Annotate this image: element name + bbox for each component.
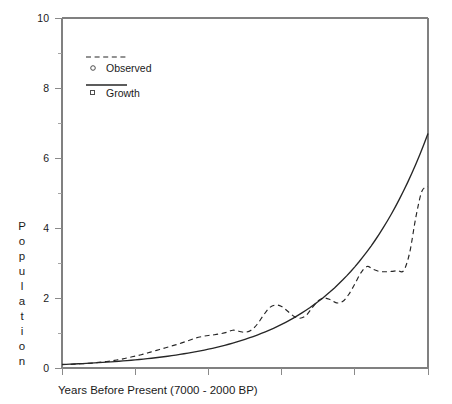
- legend-marker-square-icon: [91, 91, 95, 95]
- series-growth-path: [62, 134, 428, 365]
- y-tick-label-0: 0: [43, 362, 49, 374]
- legend-label-observed: Observed: [106, 62, 152, 74]
- population-growth-chart: 10 8 6 4 2 0 P o p u l a t i o n: [0, 0, 452, 404]
- y-axis-title-letter: p: [19, 250, 25, 262]
- y-axis-title-letter: t: [20, 310, 24, 322]
- chart-legend: Observed Growth: [86, 57, 152, 99]
- y-tick-label-8: 8: [43, 82, 49, 94]
- y-axis-title-letter: P: [18, 220, 26, 232]
- legend-marker-circle-icon: [91, 66, 96, 71]
- y-axis-title-letter: a: [19, 295, 26, 307]
- y-axis-title-letter: u: [19, 265, 25, 277]
- y-tick-label-4: 4: [43, 222, 49, 234]
- legend-label-growth: Growth: [106, 87, 140, 99]
- y-tick-label-6: 6: [43, 152, 49, 164]
- y-axis-title-letter: i: [21, 325, 24, 337]
- y-axis-ticks: [55, 18, 62, 368]
- chart-container: 10 8 6 4 2 0 P o p u l a t i o n: [0, 0, 452, 404]
- series-observed-path: [62, 187, 428, 365]
- y-axis-title-letter: o: [19, 340, 25, 352]
- x-axis-title: Years Before Present (7000 - 2000 BP): [58, 384, 258, 396]
- y-tick-label-10: 10: [37, 12, 49, 24]
- y-axis-title-letter: n: [19, 355, 25, 367]
- y-axis-title-letter: o: [19, 235, 25, 247]
- x-axis-ticks: [62, 368, 428, 375]
- y-axis-title-letter: l: [21, 280, 24, 292]
- y-axis-title: P o p u l a t i o n: [18, 220, 26, 367]
- y-tick-label-2: 2: [43, 292, 49, 304]
- y-axis-tick-labels: 10 8 6 4 2 0: [37, 12, 49, 374]
